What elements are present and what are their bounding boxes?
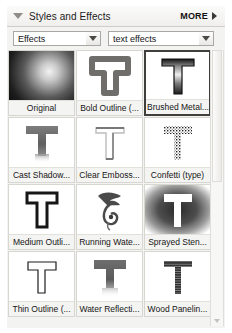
thumbnail-cell-bold-outline[interactable]: Bold Outline (... bbox=[76, 50, 143, 116]
thumbnail-image-brushed-metal-t bbox=[146, 52, 209, 99]
letter-t-running-water-icon bbox=[90, 187, 130, 233]
subcategory-dropdown-value: text effects bbox=[109, 34, 199, 44]
letter-t-thin-outline-icon bbox=[21, 255, 63, 299]
thumbnail-cell-original[interactable]: Original bbox=[8, 50, 75, 116]
more-button[interactable]: MORE bbox=[180, 11, 220, 21]
thumbnail-image-wood-paneling-t bbox=[145, 252, 210, 301]
thumbnail-label: Medium Outli... bbox=[9, 234, 74, 249]
thumbnail-cell-running-water[interactable]: Running Wate... bbox=[76, 184, 143, 250]
thumbnail-label: Bold Outline (... bbox=[77, 100, 142, 115]
thumbnail-scroll-area[interactable]: Original Bold Outline (... bbox=[7, 49, 225, 328]
thumbnail-image-running-water-t bbox=[77, 185, 142, 234]
letter-t-brushed-metal-icon bbox=[157, 54, 199, 98]
thumbnail-grid: Original Bold Outline (... bbox=[8, 50, 210, 317]
thumbnail-label: Cast Shadow... bbox=[9, 167, 74, 182]
category-dropdown-chevron-icon[interactable] bbox=[86, 32, 100, 45]
thumbnail-label: Brushed Metal... bbox=[146, 99, 209, 114]
category-dropdown[interactable]: Effects bbox=[13, 31, 101, 46]
filter-bar: Effects text effects bbox=[7, 27, 225, 50]
subcategory-dropdown[interactable]: text effects bbox=[108, 31, 214, 46]
thumbnail-cell-water-reflection[interactable]: Water Reflecti... bbox=[76, 251, 143, 317]
thumbnail-cell-thin-outline[interactable]: Thin Outline (... bbox=[8, 251, 75, 317]
styles-and-effects-palette: Styles and Effects MORE Effects text eff… bbox=[7, 6, 225, 328]
vertical-scrollbar[interactable] bbox=[210, 50, 224, 326]
thumbnail-image-sprayed-stencil-t bbox=[145, 185, 210, 234]
collapse-triangle-icon[interactable] bbox=[13, 13, 23, 19]
thumbnail-label: Thin Outline (... bbox=[9, 301, 74, 316]
thumbnail-label: Wood Panelin... bbox=[145, 301, 210, 316]
more-button-label: MORE bbox=[180, 11, 208, 21]
category-dropdown-value: Effects bbox=[14, 34, 86, 44]
thumbnail-cell-cast-shadow[interactable]: Cast Shadow... bbox=[8, 117, 75, 183]
scroll-down-arrow-icon[interactable] bbox=[212, 316, 222, 326]
letter-t-clear-emboss-icon bbox=[89, 121, 131, 165]
thumbnail-cell-confetti[interactable]: Confetti (type) bbox=[144, 117, 211, 183]
scrollbar-thumb[interactable] bbox=[212, 50, 222, 182]
thumbnail-image-apple-photo bbox=[9, 51, 74, 100]
letter-t-confetti-icon bbox=[158, 121, 198, 165]
letter-t-sprayed-icon bbox=[158, 189, 198, 231]
thumbnail-image-water-reflection-t bbox=[77, 252, 142, 301]
thumbnail-cell-brushed-metal[interactable]: Brushed Metal... bbox=[144, 50, 211, 116]
letter-t-cast-shadow-icon bbox=[20, 120, 64, 166]
thumbnail-cell-sprayed-stencil[interactable]: Sprayed Sten... bbox=[144, 184, 211, 250]
letter-t-wood-paneling-icon bbox=[158, 255, 198, 299]
letter-t-medium-outline-icon bbox=[20, 187, 64, 233]
thumbnail-image-clear-emboss-t bbox=[77, 118, 142, 167]
letter-t-bold-outline-icon bbox=[86, 53, 134, 99]
thumbnail-image-cast-shadow-t bbox=[9, 118, 74, 167]
thumbnail-cell-medium-outline[interactable]: Medium Outli... bbox=[8, 184, 75, 250]
thumbnail-cell-wood-paneling[interactable]: Wood Panelin... bbox=[144, 251, 211, 317]
thumbnail-image-medium-outline-t bbox=[9, 185, 74, 234]
subcategory-dropdown-chevron-icon[interactable] bbox=[199, 32, 213, 45]
more-arrow-icon bbox=[212, 12, 217, 20]
thumbnail-label: Sprayed Sten... bbox=[145, 234, 210, 249]
letter-t-water-reflection-icon bbox=[88, 254, 132, 300]
thumbnail-label: Original bbox=[9, 100, 74, 115]
thumbnail-image-thin-outline-t bbox=[9, 252, 74, 301]
thumbnail-label: Confetti (type) bbox=[145, 167, 210, 182]
thumbnail-image-confetti-t bbox=[145, 118, 210, 167]
thumbnail-label: Clear Emboss... bbox=[77, 167, 142, 182]
palette-title: Styles and Effects bbox=[29, 11, 180, 22]
thumbnail-label: Water Reflecti... bbox=[77, 301, 142, 316]
palette-title-bar: Styles and Effects MORE bbox=[7, 6, 225, 27]
thumbnail-label: Running Wate... bbox=[77, 234, 142, 249]
thumbnail-image-bold-outline-t bbox=[77, 51, 142, 100]
thumbnail-cell-clear-emboss[interactable]: Clear Emboss... bbox=[76, 117, 143, 183]
